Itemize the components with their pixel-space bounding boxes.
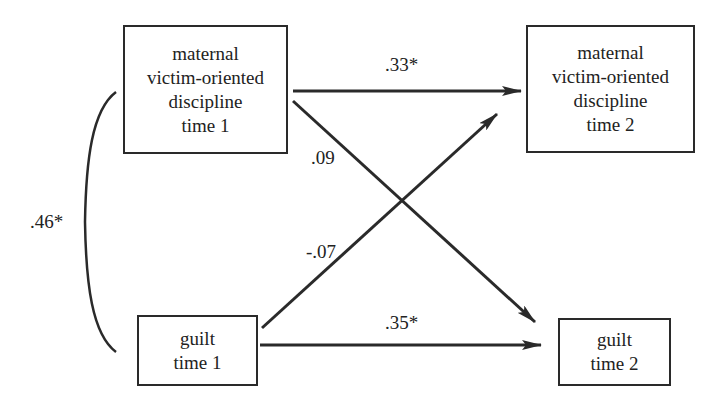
node-label-line: maternal	[172, 42, 238, 66]
correlation-curve	[85, 92, 116, 352]
node-label-line: time 2	[590, 352, 638, 376]
node-label-line: guilt	[597, 328, 632, 352]
node-label-line: guilt	[180, 327, 215, 351]
arrow-guilt-t1-to-maternal-t2	[262, 114, 497, 328]
coefficient-guilt-stability: .35*	[385, 313, 418, 333]
node-guilt-time1: guilt time 1	[137, 315, 258, 386]
coefficient-maternal-to-guilt: .09	[311, 148, 335, 168]
node-maternal-discipline-time1: maternal victim-oriented discipline time…	[123, 25, 288, 154]
node-label-line: time 1	[173, 351, 221, 375]
node-label-line: maternal	[577, 41, 643, 65]
coefficient-maternal-stability: .33*	[385, 55, 418, 75]
coefficient-guilt-to-maternal: -.07	[306, 242, 336, 262]
node-label-line: victim-oriented	[147, 66, 264, 90]
node-maternal-discipline-time2: maternal victim-oriented discipline time…	[526, 25, 695, 153]
node-label-line: discipline	[169, 90, 243, 114]
arrow-maternal-t1-to-guilt-t2	[293, 101, 535, 322]
node-guilt-time2: guilt time 2	[558, 318, 671, 386]
node-label-line: time 1	[181, 114, 229, 138]
node-label-line: time 2	[586, 113, 634, 137]
coefficient-t1-correlation: .46*	[30, 212, 63, 232]
node-label-line: discipline	[574, 89, 648, 113]
node-label-line: victim-oriented	[552, 65, 669, 89]
